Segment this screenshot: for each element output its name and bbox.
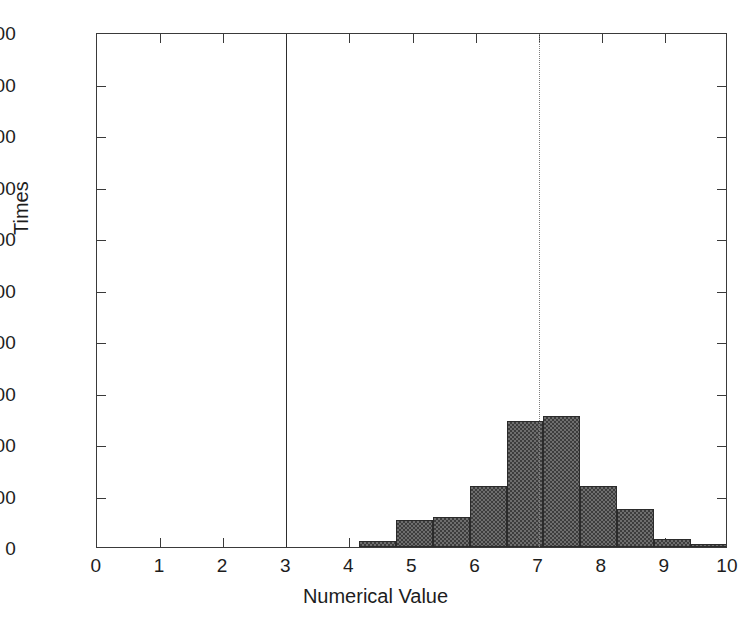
x-tick-label-0: 0 xyxy=(71,556,121,575)
y-tick-label-500: 500 xyxy=(0,282,16,301)
x-tick-label-10: 10 xyxy=(702,556,751,575)
x-tick-1 xyxy=(160,538,161,547)
y-tick-right-200 xyxy=(717,446,726,447)
y-tick-500 xyxy=(97,292,106,293)
x-tick-label-4: 4 xyxy=(323,556,373,575)
y-tick-right-700 xyxy=(717,189,726,190)
histogram-bar xyxy=(617,509,654,547)
y-tick-label-400: 400 xyxy=(0,333,16,352)
y-tick-right-100 xyxy=(717,498,726,499)
y-tick-label-600: 600 xyxy=(0,230,16,249)
x-tick-top-2 xyxy=(223,34,224,43)
histogram-figure: Times 1000 900 800 700 600 500 400 300 2… xyxy=(0,0,751,617)
x-tick-top-1 xyxy=(160,34,161,43)
x-tick-label-6: 6 xyxy=(450,556,500,575)
y-tick-right-900 xyxy=(717,86,726,87)
mean-line xyxy=(539,34,540,547)
histogram-bar xyxy=(359,541,396,547)
histogram-bar xyxy=(433,517,470,547)
y-tick-200 xyxy=(97,446,106,447)
x-tick-label-5: 5 xyxy=(387,556,437,575)
threshold-line xyxy=(286,34,287,547)
y-tick-300 xyxy=(97,395,106,396)
x-tick-label-8: 8 xyxy=(576,556,626,575)
x-tick-label-3: 3 xyxy=(260,556,310,575)
y-tick-label-900: 900 xyxy=(0,76,16,95)
y-tick-right-500 xyxy=(717,292,726,293)
y-tick-right-800 xyxy=(717,137,726,138)
x-tick-top-6 xyxy=(476,34,477,43)
histogram-bar xyxy=(470,486,507,547)
histogram-bar xyxy=(654,539,691,547)
y-tick-label-1000: 1000 xyxy=(0,24,16,43)
y-tick-label-100: 100 xyxy=(0,488,16,507)
y-tick-label-800: 800 xyxy=(0,127,16,146)
y-tick-100 xyxy=(97,498,106,499)
x-tick-label-9: 9 xyxy=(639,556,689,575)
x-tick-top-8 xyxy=(602,34,603,43)
y-tick-right-600 xyxy=(717,240,726,241)
y-tick-900 xyxy=(97,86,106,87)
x-tick-top-5 xyxy=(413,34,414,43)
y-tick-right-400 xyxy=(717,343,726,344)
x-tick-top-9 xyxy=(665,34,666,43)
y-tick-700 xyxy=(97,189,106,190)
x-tick-label-2: 2 xyxy=(197,556,247,575)
x-tick-label-7: 7 xyxy=(513,556,563,575)
y-tick-800 xyxy=(97,137,106,138)
histogram-bar xyxy=(543,416,580,547)
y-tick-400 xyxy=(97,343,106,344)
y-tick-right-300 xyxy=(717,395,726,396)
plot-area xyxy=(96,33,727,548)
histogram-bar xyxy=(580,486,617,547)
x-axis-title: Numerical Value xyxy=(0,585,751,608)
y-tick-label-200: 200 xyxy=(0,436,16,455)
histogram-bar xyxy=(396,520,433,547)
y-tick-label-700: 700 xyxy=(0,179,16,198)
x-tick-label-1: 1 xyxy=(134,556,184,575)
y-tick-label-0: 0 xyxy=(0,539,16,558)
x-tick-4 xyxy=(349,538,350,547)
x-tick-2 xyxy=(223,538,224,547)
histogram-bar xyxy=(691,544,727,547)
y-tick-600 xyxy=(97,240,106,241)
x-tick-top-4 xyxy=(349,34,350,43)
y-tick-label-300: 300 xyxy=(0,385,16,404)
